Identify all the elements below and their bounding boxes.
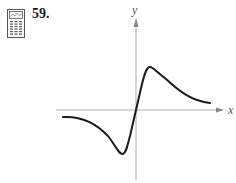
y-axis-label: y xyxy=(131,3,138,17)
function-graph: x y xyxy=(0,0,236,183)
function-curve xyxy=(63,67,210,154)
y-axis-arrow-icon xyxy=(134,18,139,27)
x-axis-label: x xyxy=(227,103,234,117)
x-axis-arrow-icon xyxy=(216,108,224,113)
